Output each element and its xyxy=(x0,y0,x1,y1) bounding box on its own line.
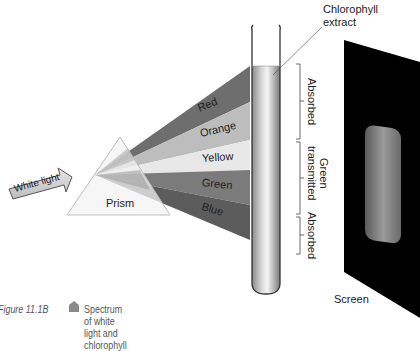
chlorophyll-extract-label-line2: extract xyxy=(323,16,356,28)
green-transmitted-label: Green transmitted xyxy=(306,146,330,200)
green-transmitted-line2: transmitted xyxy=(306,146,318,200)
absorbed-label-bottom: Absorbed xyxy=(306,212,318,259)
prism-label: Prism xyxy=(106,197,134,209)
band-label-yellow: Yellow xyxy=(202,150,234,164)
screen xyxy=(344,40,420,318)
chlorophyll-extract-label-line1: Chlorophyll xyxy=(323,3,378,15)
absorption-brackets xyxy=(296,64,304,254)
green-transmitted-line1: Green xyxy=(318,146,330,200)
figure-number: Figure 11.1B xyxy=(0,303,48,315)
figure-description: Spectrum of white light and chlorophyll xyxy=(84,303,127,351)
caption-diamond-icon xyxy=(69,301,79,312)
screen-label: Screen xyxy=(334,293,369,305)
absorbed-label-top: Absorbed xyxy=(306,78,318,125)
figure-caption: Figure 11.1B Spectrum of white light and… xyxy=(0,303,57,315)
